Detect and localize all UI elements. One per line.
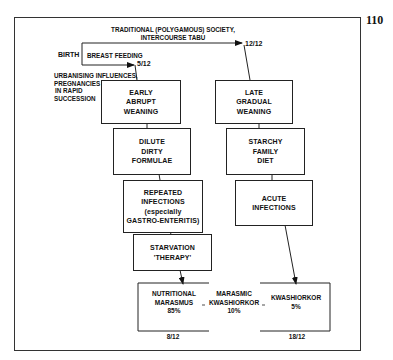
outcome-line: KWASHIORKOR (264, 294, 328, 303)
box-line: EARLY (129, 88, 153, 98)
outcome-line: KWASHIORKOR (205, 299, 263, 308)
box-line: ACUTE (262, 194, 287, 204)
kwashiorkor-age: 18/12 (283, 333, 311, 342)
birth-label: BIRTH (58, 51, 79, 59)
box-line: WEANING (237, 107, 272, 117)
box-line: REPEATED (144, 188, 182, 198)
box-line: INFECTIONS (141, 197, 184, 207)
box-line: DILUTE (139, 137, 165, 147)
box-line: DIET (257, 156, 273, 166)
age-5-12-label: 5/12 (137, 60, 151, 68)
box-line: STARCHY (248, 137, 282, 147)
early-abrupt-weaning-box: EARLY ABRUPT WEANING (101, 80, 181, 124)
starvation-therapy-box: STARVATION 'THERAPY' (133, 234, 212, 271)
breast-feeding-label: BREAST FEEDING (87, 52, 143, 60)
traditional-society-label: TRADITIONAL (POLYGAMOUS) SOCIETY, INTERC… (103, 26, 243, 41)
acute-infections-box: ACUTE INFECTIONS (235, 180, 313, 226)
outcome-line: MARASMUS (146, 299, 202, 308)
box-line: INFECTIONS (252, 203, 295, 213)
nutritional-marasmus-outcome: NUTRITIONAL MARASMUS 85% (146, 290, 202, 316)
box-line: FORMULAE (132, 156, 172, 166)
age-12-12-label: 12/12 (245, 40, 263, 48)
outcome-percent: 85% (146, 307, 202, 316)
traditional-line1: TRADITIONAL (POLYGAMOUS) SOCIETY, (103, 26, 243, 34)
dilute-dirty-formulae-box: DILUTE DIRTY FORMULAE (113, 128, 191, 175)
starchy-family-diet-box: STARCHY FAMILY DIET (226, 128, 305, 175)
traditional-line2: INTERCOURSE TABU (103, 34, 243, 42)
kwashiorkor-outcome: KWASHIORKOR 5% (264, 294, 328, 311)
box-line: LATE (245, 88, 263, 98)
box-line: ABRUPT (126, 97, 156, 107)
box-line: 'THERAPY' (154, 253, 192, 263)
box-line: WEANING (124, 107, 159, 117)
box-line: GASTRO-ENTERITIS) (127, 216, 200, 226)
late-gradual-weaning-box: LATE GRADUAL WEANING (215, 80, 293, 124)
box-line: GRADUAL (236, 97, 272, 107)
box-line: STARVATION (150, 243, 195, 253)
box-line: (especially (145, 207, 182, 217)
nutritional-marasmus-age: 8/12 (160, 333, 186, 342)
repeated-infections-box: REPEATED INFECTIONS (especially GASTRO-E… (123, 180, 203, 233)
outcome-percent: 10% (205, 307, 263, 316)
outcome-line: NUTRITIONAL (146, 290, 202, 299)
urbanising-line1: URBANISING INFLUENCES, (54, 72, 138, 80)
marasmic-kwashiorkor-outcome: MARASMIC KWASHIORKOR 10% (205, 290, 263, 316)
outcome-line: MARASMIC (205, 290, 263, 299)
outcome-percent: 5% (264, 303, 328, 312)
box-line: DIRTY (141, 147, 163, 157)
box-line: FAMILY (253, 147, 279, 157)
